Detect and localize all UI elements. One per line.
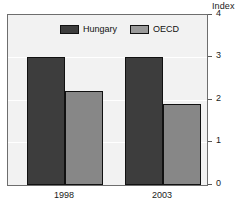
bar-oecd-2003[interactable]: [163, 104, 201, 185]
legend-swatch-oecd-icon: [130, 25, 149, 34]
y-axis: 4 3 2 1 0: [208, 14, 252, 186]
y-tick-mark-1: [208, 141, 212, 142]
legend-label-oecd: OECD: [153, 24, 179, 34]
y-tick-mark-4: [208, 14, 212, 15]
legend-swatch-hungary-icon: [60, 25, 79, 34]
plot-area: [7, 14, 208, 186]
y-tick-label-4: 4: [216, 8, 221, 19]
y-tick-label-0: 0: [216, 178, 221, 189]
bar-oecd-1998[interactable]: [65, 91, 103, 185]
x-axis-label-2003: 2003: [152, 190, 172, 200]
y-tick-mark-2: [208, 99, 212, 100]
bar-hungary-2003[interactable]: [125, 57, 163, 185]
x-axis-label-1998: 1998: [54, 190, 74, 200]
legend-label-hungary: Hungary: [83, 24, 117, 34]
legend-entry-oecd[interactable]: OECD: [130, 24, 179, 34]
legend-entry-hungary[interactable]: Hungary: [60, 24, 117, 34]
bar-chart-figure: Index 4 3 2 1: [0, 0, 252, 209]
y-tick-label-3: 3: [216, 50, 221, 61]
y-tick-label-1: 1: [216, 135, 221, 146]
bars-layer: [8, 15, 207, 185]
bar-hungary-1998[interactable]: [27, 57, 65, 185]
y-tick-mark-3: [208, 56, 212, 57]
chart-legend: Hungary OECD: [60, 24, 179, 34]
x-axis: 1998 2003: [7, 190, 208, 206]
y-tick-mark-0: [208, 184, 212, 185]
y-tick-label-2: 2: [216, 93, 221, 104]
